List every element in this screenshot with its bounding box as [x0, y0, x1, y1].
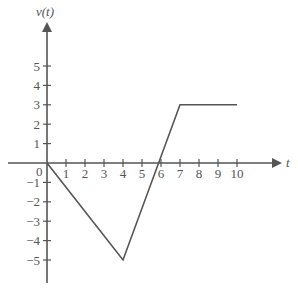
y-tick-label: 3 [34, 97, 41, 112]
y-tick-label: 1 [34, 136, 41, 151]
x-tick-label: 6 [158, 166, 165, 181]
x-axis-label: t [286, 155, 290, 170]
y-tick-label: −4 [26, 233, 40, 248]
y-tick-label: 5 [34, 59, 41, 74]
x-tick-label: 3 [101, 166, 108, 181]
y-tick-label: −2 [26, 194, 40, 209]
x-tick-label: 10 [231, 166, 244, 181]
origin-label: 0 [36, 164, 43, 179]
x-tick-label: 1 [63, 166, 70, 181]
x-tick-label: 9 [215, 166, 222, 181]
x-tick-label: 4 [120, 166, 127, 181]
x-tick-label: 2 [82, 166, 89, 181]
y-tick-label: −5 [26, 253, 40, 268]
y-tick-label: 4 [34, 78, 41, 93]
x-tick-label: 8 [196, 166, 203, 181]
x-tick-label: 5 [139, 166, 146, 181]
data-line [47, 105, 237, 260]
y-tick-label: −3 [26, 214, 40, 229]
y-axis-label: v(t) [36, 4, 54, 19]
x-tick-label: 7 [177, 166, 184, 181]
chart-plot: 12345678910 54321−1−2−3−4−5 0 t v(t) [0, 0, 298, 294]
y-tick-label: 2 [34, 117, 41, 132]
